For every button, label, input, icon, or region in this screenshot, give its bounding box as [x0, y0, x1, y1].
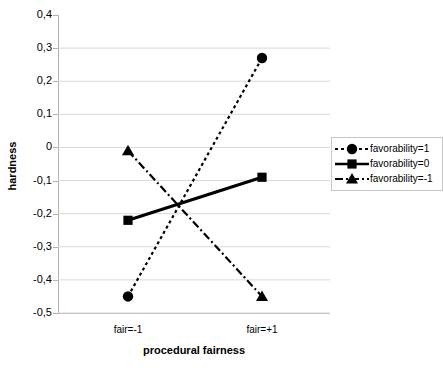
- y-tick-label: -0,5: [18, 307, 52, 318]
- y-tick-mark: [53, 81, 58, 82]
- legend-item: favorability=0: [332, 156, 442, 171]
- y-tick-label: 0,4: [18, 9, 52, 20]
- y-tick-label: 0,3: [18, 42, 52, 53]
- interaction-plot: hardness 0,40,30,20,10-0,1-0,2-0,3-0,4-0…: [0, 0, 443, 370]
- y-tick-label: 0,2: [18, 75, 52, 86]
- triangle-marker: [122, 145, 134, 156]
- square-marker: [257, 173, 266, 182]
- y-tick-mark: [53, 313, 58, 314]
- y-tick-mark: [53, 114, 58, 115]
- legend-label: favorability=1: [370, 143, 429, 154]
- y-axis-tick-labels: 0,40,30,20,10-0,1-0,2-0,3-0,4-0,5: [14, 0, 52, 370]
- plot-area: [58, 15, 330, 313]
- series-line: [128, 151, 262, 297]
- legend-key: [334, 142, 370, 156]
- series-favorability=-1: [122, 145, 268, 301]
- y-tick-mark: [53, 15, 58, 16]
- y-tick-label: -0,1: [18, 175, 52, 186]
- legend-label: favorability=-1: [370, 173, 433, 184]
- square-marker: [347, 159, 356, 168]
- y-tick-mark: [53, 181, 58, 182]
- series-line: [128, 58, 262, 296]
- legend-item: favorability=1: [332, 141, 442, 156]
- legend-label: favorability=0: [370, 158, 429, 169]
- y-tick-mark: [53, 247, 58, 248]
- legend-key: [334, 172, 370, 186]
- y-tick-mark: [53, 214, 58, 215]
- circle-marker: [257, 53, 267, 63]
- series-favorability=0: [123, 173, 266, 225]
- series-layer: [58, 15, 330, 313]
- legend: favorability=1favorability=0favorability…: [331, 137, 443, 191]
- y-tick-label: 0,1: [18, 108, 52, 119]
- legend-item: favorability=-1: [332, 171, 442, 186]
- circle-marker: [123, 291, 133, 301]
- legend-key: [334, 157, 370, 171]
- y-tick-mark: [53, 280, 58, 281]
- series-line: [128, 177, 262, 220]
- y-tick-label: -0,3: [18, 241, 52, 252]
- square-marker: [123, 216, 132, 225]
- circle-marker: [347, 143, 357, 153]
- triangle-marker: [256, 290, 268, 301]
- y-tick-label: -0,2: [18, 208, 52, 219]
- y-tick-mark: [53, 147, 58, 148]
- y-tick-mark: [53, 48, 58, 49]
- x-tick-label: fair=-1: [114, 324, 143, 335]
- y-tick-label: -0,4: [18, 274, 52, 285]
- series-favorability=1: [123, 53, 267, 302]
- x-axis-title: procedural fairness: [58, 344, 330, 356]
- y-tick-label: 0: [18, 141, 52, 152]
- x-tick-label: fair=+1: [246, 324, 277, 335]
